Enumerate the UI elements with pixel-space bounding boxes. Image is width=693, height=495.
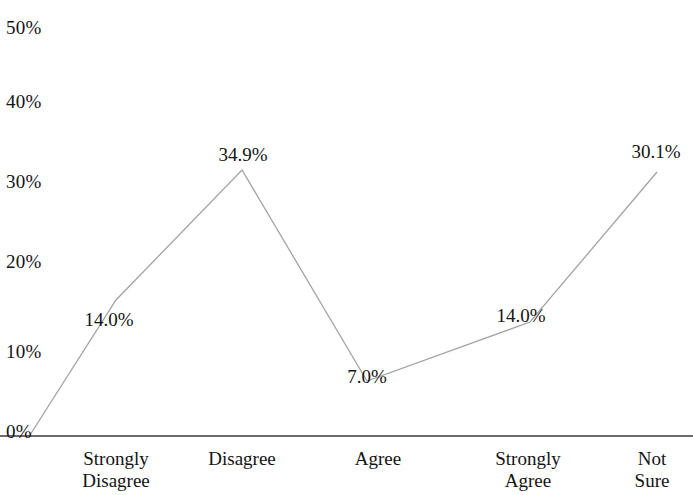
y-tick-label-10: 10%: [6, 342, 41, 361]
y-tick-label-30: 30%: [6, 172, 41, 191]
y-tick-label-0: 0%: [6, 422, 32, 441]
x-category-label-disagree: Disagree: [208, 448, 276, 470]
chart-plot-area: [0, 0, 693, 495]
data-label-strongly-disagree: 14.0%: [84, 310, 133, 329]
data-label-not-sure: 30.1%: [631, 142, 680, 161]
data-series-line: [30, 170, 657, 435]
y-tick-label-40: 40%: [6, 92, 41, 111]
y-tick-label-50: 50%: [6, 18, 41, 37]
x-category-label-agree: Agree: [355, 448, 401, 470]
x-category-label-strongly-disagree: Strongly Disagree: [82, 448, 150, 492]
x-category-label-not-sure: Not Sure: [635, 448, 670, 492]
line-chart: 50% 40% 30% 20% 10% 0% Strongly Disagree…: [0, 0, 693, 495]
data-label-agree: 7.0%: [347, 367, 387, 386]
data-label-disagree: 34.9%: [218, 145, 267, 164]
data-label-strongly-agree: 14.0%: [496, 306, 545, 325]
x-category-label-strongly-agree: Strongly Agree: [495, 448, 560, 492]
y-tick-label-20: 20%: [6, 252, 41, 271]
